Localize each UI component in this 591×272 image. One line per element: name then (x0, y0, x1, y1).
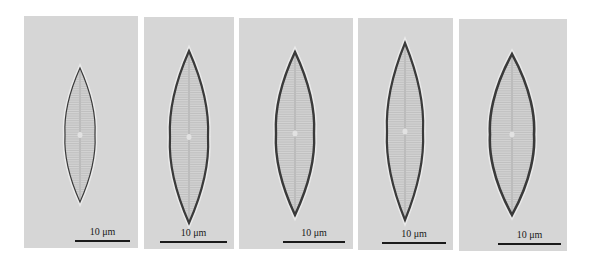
micrograph-panel-a: 10 μm (24, 16, 138, 248)
diatom-cell-e (459, 19, 567, 251)
diatom-cell-b (144, 17, 234, 249)
scale-bar (498, 243, 561, 245)
scale-bar (75, 240, 130, 242)
scale-bar (160, 241, 227, 243)
scale-bar-label: 10 μm (498, 229, 561, 240)
micrograph-panel-e: 10 μm (459, 19, 567, 251)
diatom-cell-d (358, 18, 453, 250)
scale-bar-label: 10 μm (160, 227, 227, 238)
micrograph-panel-d: 10 μm (358, 18, 453, 250)
micrograph-panel-c: 10 μm (239, 18, 353, 249)
scale-bar (283, 241, 345, 243)
micrograph-panel-b: 10 μm (144, 17, 234, 249)
scale-bar-label: 10 μm (75, 226, 130, 237)
scale-bar-label: 10 μm (283, 227, 345, 238)
scale-bar (382, 242, 446, 244)
diatom-cell-a (24, 16, 138, 248)
scale-bar-label: 10 μm (382, 228, 446, 239)
diatom-cell-c (239, 18, 353, 249)
